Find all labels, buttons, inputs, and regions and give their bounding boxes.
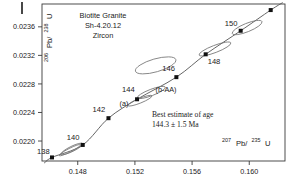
y-axis-label-sup-206: 206 [43,53,49,62]
data-point-label-150: 150 [225,19,238,28]
y-tick-label-0: 0.0236 [13,22,35,31]
data-point-label-142: 142 [92,105,105,114]
ellipse-140-low [60,141,84,156]
y-tick-label-4: 0.0220 [13,137,35,146]
y-axis-label-u: U [45,14,54,19]
ellipse-a [127,94,153,108]
figure-title-line-0: Biotite Granite [80,11,127,20]
y-axis-label-sup-238: 238 [43,24,49,33]
x-tick-label-1: 0.152 [126,167,144,176]
x-axis-label: 207Pb/235U [222,137,270,148]
age-estimate-line-0: Best estimate of age [152,110,214,119]
data-point-label-144: 144 [122,85,135,94]
ellipse-upper-right-148 [198,40,232,59]
data-marker-142 [106,116,110,120]
concordia-diagram-figure: 0.02360.02320.02280.02240.02200.1480.152… [0,0,287,191]
data-marker-146 [174,75,178,79]
x-axis-label-u: U [265,139,270,148]
data-point-label-148: 148 [208,57,221,66]
age-estimate-line-1: 144.3 ± 1.5 Ma [152,120,199,129]
upper-right-analysis [269,8,273,12]
data-marker-138 [50,155,54,159]
x-axis-label-sup-207: 207 [222,137,231,143]
data-marker-148 [204,52,208,56]
data-marker-140 [81,143,85,147]
figure-title-line-2: Zircon [93,31,114,40]
x-tick-label-2: 0.156 [183,167,201,176]
chart-canvas: 0.02360.02320.02280.02240.02200.1480.152… [0,0,287,191]
ellipse-b-aa-label: (b-AA) [156,85,177,94]
ellipse-140-low-2 [58,143,81,157]
data-point-label-140: 140 [67,133,80,142]
data-marker-150 [239,29,243,33]
y-tick-label-1: 0.0232 [13,51,35,60]
data-point-label-146: 146 [162,64,175,73]
ellipse-a-label: (a) [120,99,129,108]
figure-title-line-1: Sh-4.20.12 [85,21,121,30]
y-tick-label-3: 0.0224 [13,108,35,117]
x-axis-label-pb-slash: Pb/ [236,139,248,148]
x-tick-label-0: 0.148 [69,167,87,176]
y-axis-label: 206Pb/238U [43,14,54,62]
y-axis-label-pb-slash: Pb/ [45,36,54,48]
data-marker-144 [135,97,139,101]
data-point-label-138: 138 [37,147,50,156]
x-tick-label-3: 0.160 [240,167,258,176]
y-tick-label-2: 0.0228 [13,80,35,89]
x-axis-label-sup-235: 235 [252,137,261,143]
